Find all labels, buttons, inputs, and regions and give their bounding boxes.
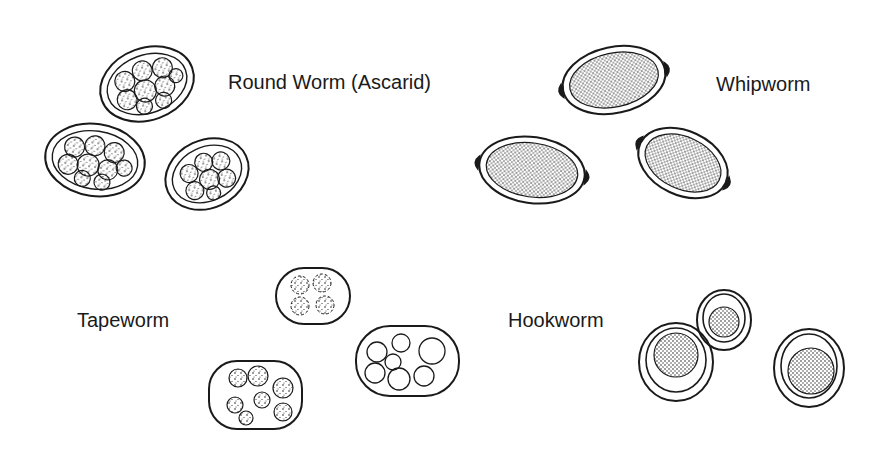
roundworm-label: Round Worm (Ascarid) xyxy=(228,71,431,94)
tapeworm-eggs xyxy=(209,268,459,429)
hookworm-eggs xyxy=(639,290,844,407)
hookworm-label: Hookworm xyxy=(508,309,604,332)
whipworm-label: Whipworm xyxy=(716,73,810,96)
tapeworm-label: Tapeworm xyxy=(77,309,169,332)
parasite-eggs-illustration xyxy=(0,0,892,453)
roundworm-eggs xyxy=(40,34,260,223)
whipworm-eggs xyxy=(471,36,743,213)
